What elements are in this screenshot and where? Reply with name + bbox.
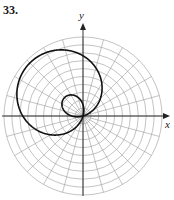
polar-plot — [0, 0, 174, 200]
axes — [2, 23, 170, 196]
